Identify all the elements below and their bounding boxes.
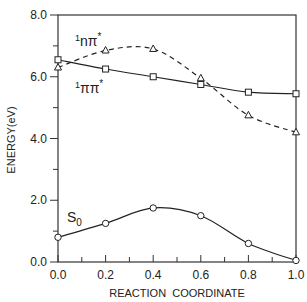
energy-chart: 0.00.20.40.60.81.00.02.04.06.08.0 1nπ* 1…	[0, 0, 307, 302]
y-tick-label: 4.0	[30, 132, 47, 146]
y-tick-label: 8.0	[30, 8, 47, 22]
label-s0: S0	[67, 209, 82, 228]
curve-circle	[58, 208, 296, 261]
curves	[58, 47, 296, 261]
circle-marker-icon	[245, 240, 251, 246]
square-marker-icon	[103, 66, 109, 72]
axes: 0.00.20.40.60.81.00.02.04.06.08.0	[30, 8, 304, 282]
square-marker-icon	[198, 81, 204, 87]
y-tick-label: 2.0	[30, 193, 47, 207]
square-marker-icon	[55, 57, 61, 63]
circle-marker-icon	[293, 257, 299, 263]
x-axis-label: REACTION COORDINATE	[109, 287, 244, 299]
label-npi: 1nπ*	[75, 31, 101, 49]
y-tick-label: 0.0	[30, 255, 47, 269]
triangle-marker-icon	[150, 45, 157, 52]
plot-frame	[58, 15, 296, 262]
circle-marker-icon	[198, 212, 204, 218]
x-tick-label: 1.0	[288, 268, 305, 282]
y-tick-label: 6.0	[30, 70, 47, 84]
circle-marker-icon	[55, 234, 61, 240]
square-marker-icon	[150, 74, 156, 80]
x-tick-label: 0.8	[240, 268, 257, 282]
y-axis-label: ENERGY(eV)	[5, 106, 17, 173]
circle-marker-icon	[102, 220, 108, 226]
triangle-marker-icon	[245, 111, 252, 118]
label-pipi: 1ππ*	[75, 78, 103, 96]
square-marker-icon	[293, 91, 299, 97]
x-tick-label: 0.4	[145, 268, 162, 282]
square-marker-icon	[245, 89, 251, 95]
triangle-marker-icon	[102, 47, 109, 54]
x-tick-label: 0.2	[97, 268, 114, 282]
x-tick-label: 0.6	[192, 268, 209, 282]
markers	[55, 45, 300, 264]
x-tick-label: 0.0	[50, 268, 67, 282]
circle-marker-icon	[150, 205, 156, 211]
triangle-marker-icon	[197, 74, 204, 81]
